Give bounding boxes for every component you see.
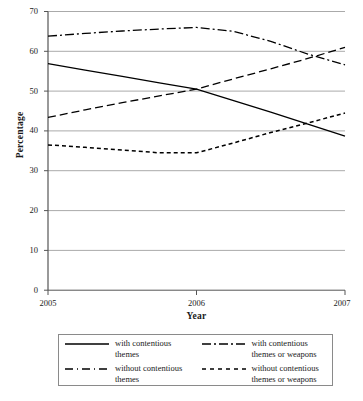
y-tick-label-20: 20 <box>12 205 38 215</box>
y-tick-label-60: 60 <box>12 46 38 56</box>
legend-swatch-solid-icon <box>63 338 111 352</box>
series-line-without-contentious-themes-or-weapons <box>48 113 345 153</box>
x-tick-label-2005: 2005 <box>28 298 68 308</box>
legend-label-without-contentious-themes-or-weapons: without contentious themes or weapons <box>252 363 319 384</box>
x-axis-title: Year <box>48 311 345 321</box>
x-tick-label-2006: 2006 <box>177 298 217 308</box>
y-tick-label-10: 10 <box>12 245 38 255</box>
legend-swatch-dotted-icon <box>200 363 248 377</box>
legend-item-without-contentious-themes: without contentious themes <box>59 360 196 385</box>
y-tick-label-0: 0 <box>12 285 38 295</box>
legend-label-line1: without contentious <box>252 363 319 373</box>
x-tick-marks <box>48 290 345 295</box>
legend-label-line2: themes or weapons <box>252 374 317 384</box>
legend-label-with-contentious-themes-or-weapons: with contentious themes or weapons <box>252 338 317 359</box>
legend-item-without-contentious-themes-or-weapons: without contentious themes or weapons <box>196 360 333 385</box>
legend-label-line1: without contentious <box>115 363 182 373</box>
legend-label-line1: with contentious <box>252 338 308 348</box>
chart-legend: with contentious themes with contentious… <box>58 334 333 386</box>
legend-label-line2: themes or weapons <box>252 349 317 359</box>
legend-label-line2: themes <box>115 374 139 384</box>
y-tick-label-70: 70 <box>12 6 38 16</box>
gridlines <box>48 12 345 251</box>
legend-label-line1: with contentious <box>115 338 171 348</box>
series-lines <box>48 27 345 152</box>
legend-item-with-contentious-themes: with contentious themes <box>59 335 196 360</box>
legend-label-with-contentious-themes: with contentious themes <box>115 338 171 359</box>
series-line-with-contentious-themes <box>48 64 345 136</box>
y-axis-title: Percentage <box>15 85 25 185</box>
legend-item-with-contentious-themes-or-weapons: with contentious themes or weapons <box>196 335 333 360</box>
legend-swatch-dash-dot-icon <box>200 338 248 352</box>
series-line-without-contentious-themes <box>48 47 345 117</box>
legend-swatch-dashed-icon <box>63 363 111 377</box>
x-tick-label-2007: 2007 <box>322 298 362 308</box>
legend-label-without-contentious-themes: without contentious themes <box>115 363 182 384</box>
legend-label-line2: themes <box>115 349 139 359</box>
series-line-with-contentious-themes-or-weapons <box>48 27 345 64</box>
chart-figure: 70 60 50 40 30 20 10 0 2005 2006 2007 Pe… <box>0 0 363 401</box>
